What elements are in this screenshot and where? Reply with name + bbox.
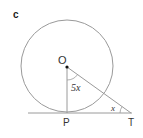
part-label: c	[13, 9, 19, 20]
label-t: T	[128, 117, 134, 128]
label-angle-t: x	[110, 103, 115, 113]
geometry-diagram: c O 5x x P T	[0, 0, 143, 138]
label-p: P	[63, 117, 70, 128]
angle-arc-o	[67, 75, 78, 80]
label-angle-o: 5x	[71, 82, 81, 93]
label-o: O	[58, 54, 67, 66]
angle-arc-t	[120, 107, 122, 113]
